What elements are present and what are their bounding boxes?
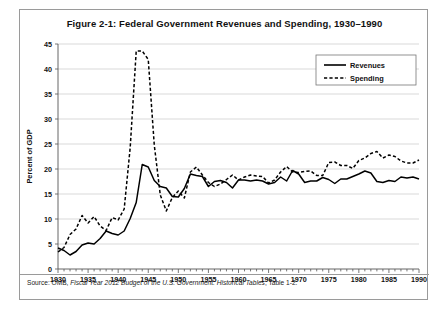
y-tick-label: 15 <box>44 190 52 199</box>
source-title: Fiscal Year 2012 Budget of the U.S. Gove… <box>70 279 265 286</box>
y-tick-label: 45 <box>44 40 52 49</box>
y-tick-label: 35 <box>44 90 52 99</box>
y-tick-label: 10 <box>44 215 52 224</box>
y-tick-labels-group: 051015202530354045 <box>44 40 58 274</box>
x-tick-marks-group <box>58 269 419 273</box>
y-tick-label: 25 <box>44 140 52 149</box>
y-tick-label: 30 <box>44 115 52 124</box>
source-note: Source: OMB, Fiscal Year 2012 Budget of … <box>27 279 427 286</box>
y-tick-label: 20 <box>44 165 52 174</box>
source-suffix: , Table 1-2. <box>265 279 298 286</box>
legend-item-revenues-label: Revenues <box>350 61 385 70</box>
series-line-revenues <box>58 165 419 256</box>
chart-legend: RevenuesSpending <box>316 55 416 85</box>
y-tick-label: 0 <box>48 265 52 274</box>
source-divider <box>20 274 429 275</box>
legend-item-spending-label: Spending <box>350 74 384 83</box>
y-axis-title: Percent of GDP <box>25 129 34 183</box>
chart-plot: 051015202530354045 193019351940194519501… <box>20 10 429 301</box>
figure-container: Figure 2-1: Federal Government Revenues … <box>19 9 428 300</box>
source-prefix: Source: OMB, <box>27 279 70 286</box>
y-tick-label: 40 <box>44 65 52 74</box>
y-tick-label: 5 <box>48 240 52 249</box>
